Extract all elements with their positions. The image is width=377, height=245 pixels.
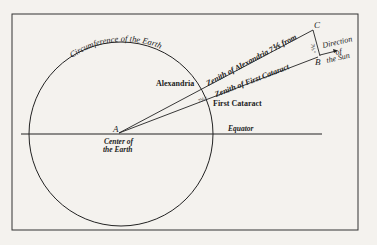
equator-label: Equator (227, 124, 254, 133)
angle-label-surface: 7⅕° (198, 96, 209, 104)
point-a-label: A (112, 124, 119, 134)
circumference-label: Circumference of the Earth (68, 33, 164, 59)
first-cataract-label: First Cataract (213, 99, 262, 108)
point-c-label: C (314, 20, 321, 30)
zenith-first-cataract-label: Zenith of First Cataract (213, 62, 292, 99)
alexandria-label: Alexandria (156, 79, 194, 88)
angle-label-cb: 7⅕° (310, 43, 317, 53)
diagram-frame (12, 14, 358, 230)
center-label-2: the Earth (103, 145, 132, 154)
eratosthenes-diagram: Circumference of the Earth Alexandria Fi… (0, 0, 377, 245)
point-b-label: B (315, 57, 321, 67)
